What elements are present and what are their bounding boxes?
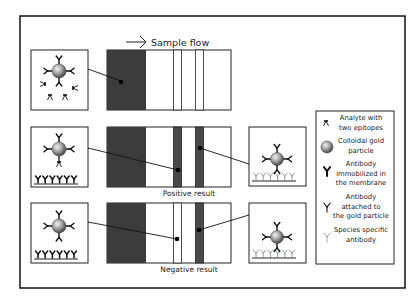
sample-flow-arrow-icon [126, 36, 146, 48]
row3-test-dot [175, 237, 180, 242]
row2-test-dot [176, 168, 181, 173]
sample-flow-label: Sample flow [151, 37, 209, 48]
negative-result-label: Negative result [160, 265, 217, 274]
legend-label: Antibody [346, 160, 376, 168]
control-line-negative [196, 203, 204, 263]
legend-label: attached to [341, 203, 380, 211]
conjugate-pad [107, 50, 146, 110]
legend-label: Analyte with [340, 114, 382, 122]
control-line-positive [196, 127, 204, 187]
positive-result-label: Positive result [163, 189, 216, 198]
row1-strip [107, 50, 231, 110]
gold-particle-icon [52, 219, 66, 233]
gold-particle-icon [321, 141, 333, 153]
test-line-empty [174, 50, 182, 110]
gold-particle-icon [271, 231, 284, 244]
gold-particle-icon [52, 64, 66, 78]
legend-label: particle [348, 147, 374, 155]
gold-particle-icon [271, 153, 284, 166]
legend-label: Species specific [334, 226, 388, 234]
test-line-positive [174, 127, 182, 187]
test-line-negative [174, 203, 182, 263]
legend-label: the membrane [336, 179, 387, 187]
row3-strip [107, 203, 231, 263]
control-line-empty [196, 50, 204, 110]
conjugate-pad [107, 203, 146, 263]
legend-label: Antibody [346, 193, 376, 201]
gold-particle-icon [52, 142, 66, 156]
legend-label: antibody [346, 236, 376, 244]
row2-control-dot [198, 146, 203, 151]
lfia-diagram: Sample flow Positive result Negative res… [0, 0, 414, 302]
row1-pointer-dot [119, 80, 124, 85]
legend-label: Colloidal gold [338, 137, 384, 145]
legend-label: immobilized in [336, 170, 386, 178]
legend-label: two epitopes [339, 124, 383, 132]
row3-control-dot [197, 228, 202, 233]
legend-label: the gold particle [333, 212, 389, 220]
